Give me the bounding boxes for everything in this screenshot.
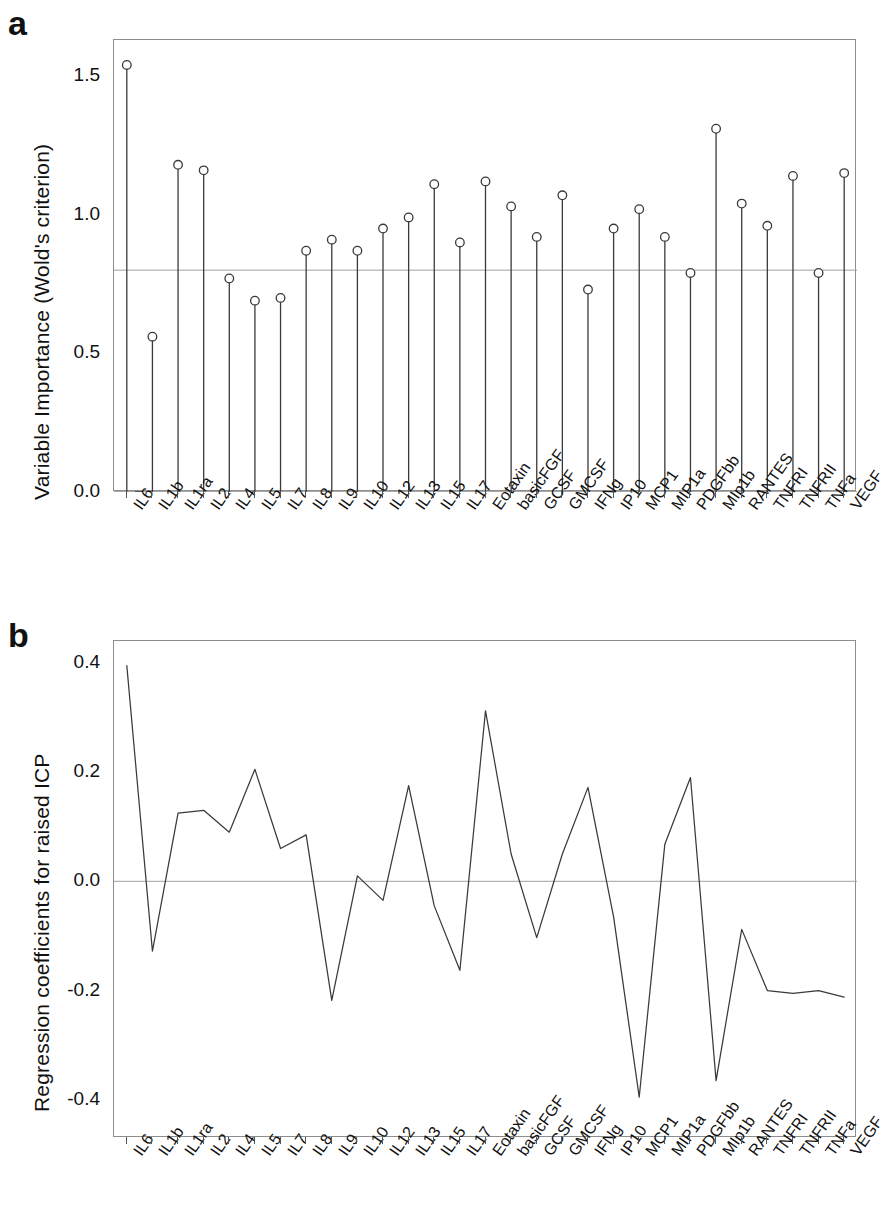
data-point-IP10 <box>609 224 618 492</box>
data-point-IL9 <box>327 235 336 492</box>
y-tick-label: 0.0 <box>74 869 100 891</box>
x-tick-mark <box>305 491 306 498</box>
stem-marker <box>635 205 644 214</box>
x-tick-mark <box>792 491 793 498</box>
x-tick-mark <box>228 491 229 498</box>
y-tick-label: 1.5 <box>74 64 100 86</box>
data-point-IL17 <box>456 238 465 492</box>
x-tick-mark <box>843 491 844 498</box>
data-point-GCSF <box>532 233 541 492</box>
x-tick-mark <box>741 1137 742 1144</box>
data-point-PDGFbb <box>686 269 695 492</box>
x-tick-mark <box>382 1137 383 1144</box>
stem-marker <box>532 233 541 242</box>
y-tick-label: 0.2 <box>74 760 100 782</box>
data-point-IL13 <box>404 213 413 492</box>
data-point-IL12 <box>379 224 388 492</box>
x-tick-mark <box>792 1137 793 1144</box>
x-tick-mark <box>587 491 588 498</box>
x-tick-mark <box>561 491 562 498</box>
x-tick-mark <box>408 491 409 498</box>
stem-marker <box>712 124 721 133</box>
data-point-IL10 <box>353 246 362 492</box>
stem-marker <box>123 61 132 70</box>
data-point-IL1b <box>148 332 157 492</box>
x-tick-mark <box>766 491 767 498</box>
stem-marker <box>737 199 746 208</box>
x-tick-mark <box>356 1137 357 1144</box>
panel-a-y-tick-labels: 0.00.51.01.5 <box>30 0 100 612</box>
x-tick-mark <box>228 1137 229 1144</box>
x-tick-mark <box>766 1137 767 1144</box>
x-tick-mark <box>741 491 742 498</box>
data-point-IL1ra <box>174 160 183 492</box>
data-point-MCP1 <box>635 205 644 492</box>
panel-b: b Regression coefficients for raised ICP… <box>0 612 879 1226</box>
stem-marker <box>327 235 336 244</box>
x-tick-mark <box>536 1137 537 1144</box>
stem-marker <box>379 224 388 233</box>
x-tick-mark <box>408 1137 409 1144</box>
stem-marker <box>507 202 516 211</box>
y-tick-label: 0.0 <box>74 480 100 502</box>
data-point-VEGF <box>840 169 849 492</box>
x-tick-mark <box>818 1137 819 1144</box>
data-point-TNFRII <box>789 172 798 492</box>
stem-marker <box>840 169 849 178</box>
x-tick-mark <box>843 1137 844 1144</box>
x-tick-mark <box>613 1137 614 1144</box>
x-tick-mark <box>818 491 819 498</box>
x-tick-mark <box>715 1137 716 1144</box>
x-tick-mark <box>638 491 639 498</box>
x-tick-mark <box>715 491 716 498</box>
panel-b-y-tick-labels: -0.4-0.20.00.20.4 <box>30 612 100 1226</box>
data-point-IFNg <box>584 285 593 492</box>
data-point-IL7 <box>276 294 285 492</box>
x-tick-mark <box>177 491 178 498</box>
x-tick-mark <box>689 1137 690 1144</box>
stem-marker <box>609 224 618 233</box>
panel-a: a Variable Importance (Wold's criterion)… <box>0 0 879 612</box>
x-tick-mark <box>485 1137 486 1144</box>
y-tick-label: -0.4 <box>67 1088 100 1110</box>
x-tick-mark <box>587 1137 588 1144</box>
x-tick-mark <box>331 1137 332 1144</box>
x-tick-mark <box>664 491 665 498</box>
stem-marker <box>174 160 183 169</box>
panel-a-plot-area <box>113 39 856 491</box>
data-point-IL4 <box>225 274 234 492</box>
stem-marker <box>199 166 208 175</box>
y-tick-label: 1.0 <box>74 203 100 225</box>
stem-marker <box>789 172 798 181</box>
x-tick-mark <box>126 491 127 498</box>
x-tick-mark <box>305 1137 306 1144</box>
data-point-TNFa <box>814 269 823 492</box>
data-point-RANTES <box>737 199 746 492</box>
data-point-IL15 <box>430 180 439 492</box>
stem-marker <box>251 296 260 305</box>
x-tick-mark <box>151 491 152 498</box>
stem-marker <box>148 332 157 341</box>
stem-marker <box>686 269 695 278</box>
panel-a-stem-plot <box>114 40 857 492</box>
stem-marker <box>302 246 311 255</box>
stem-marker <box>763 221 772 230</box>
x-tick-mark <box>151 1137 152 1144</box>
stem-marker <box>456 238 465 247</box>
stem-marker <box>225 274 234 283</box>
data-point-GMCSF <box>558 191 567 492</box>
x-tick-mark <box>536 491 537 498</box>
stem-marker <box>661 233 670 242</box>
data-point-MIP1a <box>661 233 670 492</box>
stem-marker <box>404 213 413 222</box>
x-tick-mark <box>126 1137 127 1144</box>
stem-marker <box>558 191 567 200</box>
data-point-IL2 <box>199 166 208 492</box>
x-tick-mark <box>280 1137 281 1144</box>
x-tick-mark <box>485 491 486 498</box>
x-tick-mark <box>382 491 383 498</box>
x-tick-mark <box>203 491 204 498</box>
panel-b-line-plot <box>114 641 857 1138</box>
x-tick-mark <box>459 491 460 498</box>
data-point-IL6 <box>123 61 132 492</box>
